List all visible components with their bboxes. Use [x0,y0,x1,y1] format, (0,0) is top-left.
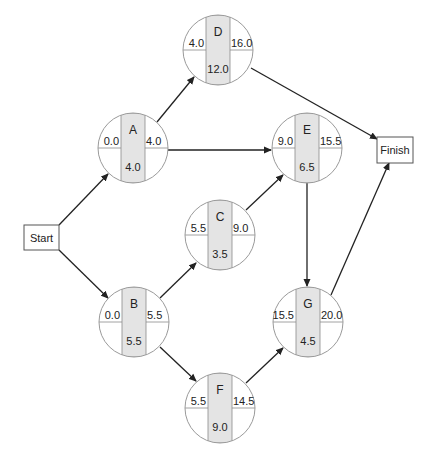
activity-label: A [129,123,137,137]
early-finish-value: 4.0 [146,135,161,147]
early-start-value: 15.5 [273,309,294,321]
finish-label: Finish [380,144,409,156]
activity-node-d: D4.016.012.0 [183,15,253,85]
start-box: Start [24,225,59,250]
arrow-b-to-c [160,263,196,298]
duration-value: 6.5 [299,161,314,173]
early-start-value: 9.0 [278,135,293,147]
duration-value: 4.5 [300,335,315,347]
arrow-b-to-f [160,347,196,381]
early-start-value: 4.0 [189,37,204,49]
duration-value: 12.0 [207,63,228,75]
activity-label: C [216,210,225,224]
arrow-start-to-a [59,174,108,225]
activity-node-f: F5.514.59.0 [185,373,255,443]
early-finish-value: 9.0 [233,222,248,234]
early-finish-value: 5.5 [147,309,162,321]
early-start-value: 5.5 [191,395,206,407]
activity-node-a: A0.04.04.0 [98,113,168,183]
finish-box: Finish [377,137,413,163]
early-finish-value: 16.0 [231,37,252,49]
arrow-a-to-d [157,77,194,122]
nodes-layer: A0.04.04.0D4.016.012.0E9.015.56.5C5.59.0… [98,15,343,443]
network-diagram: A0.04.04.0D4.016.012.0E9.015.56.5C5.59.0… [0,0,438,473]
activity-label: B [130,297,138,311]
early-finish-value: 20.0 [321,309,342,321]
activity-label: F [216,383,223,397]
start-label: Start [30,232,53,244]
early-finish-value: 15.5 [320,135,341,147]
arrow-start-to-b [59,250,108,298]
activity-node-b: B0.05.55.5 [99,287,169,357]
arrow-f-to-g [246,348,283,383]
early-start-value: 0.0 [104,135,119,147]
duration-value: 5.5 [126,335,141,347]
duration-value: 3.5 [212,248,227,260]
activity-label: D [214,25,223,39]
arrow-g-to-finish [331,163,389,295]
activity-node-e: E9.015.56.5 [272,113,342,183]
arrow-c-to-e [246,175,283,210]
early-start-value: 0.0 [105,309,120,321]
duration-value: 4.0 [125,161,140,173]
activity-node-c: C5.59.03.5 [185,200,255,270]
activity-node-g: G15.520.04.5 [273,287,343,357]
duration-value: 9.0 [212,421,227,433]
early-start-value: 5.5 [191,222,206,234]
activity-label: G [303,297,312,311]
activity-label: E [303,123,311,137]
early-finish-value: 14.5 [233,395,254,407]
